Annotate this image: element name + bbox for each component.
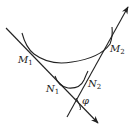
label-m1: M1: [17, 54, 33, 67]
svg-text:N1: N1: [45, 83, 59, 96]
svg-text:M2: M2: [109, 43, 125, 56]
label-n1: N1: [45, 83, 59, 96]
svg-text:N2: N2: [87, 78, 101, 91]
line-m1-n1: [6, 28, 98, 123]
line-n2-m2: [67, 7, 128, 117]
label-m2: M2: [109, 43, 125, 56]
label-n2: N2: [87, 78, 101, 91]
arc-m1-m2: [22, 27, 112, 63]
label-phi: φ: [82, 95, 89, 106]
diagram-canvas: M1 M2 N1 N2 φ: [0, 0, 134, 129]
svg-text:M1: M1: [17, 54, 33, 67]
arc-n1-n2: [55, 71, 88, 88]
